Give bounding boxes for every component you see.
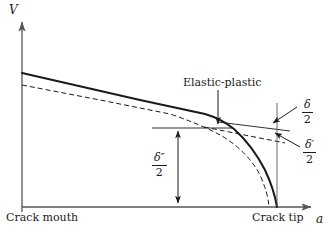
diagram-canvas (0, 0, 335, 240)
elastic-plastic-label: Elastic-plastic (183, 77, 261, 88)
delta-over-two-label: δ 2 (302, 99, 313, 125)
figure-root: V a Crack mouth Crack tip Elastic-plasti… (0, 0, 335, 240)
delta-numerator: δ (302, 99, 313, 113)
crack-tip-tangent-line (218, 122, 290, 131)
crack-tip-label: Crack tip (252, 212, 304, 223)
crack-mouth-label: Crack mouth (6, 212, 78, 223)
delta-prime-denominator: 2 (303, 153, 316, 166)
delta-double-prime-denominator: 2 (152, 166, 167, 179)
delta-double-prime-over-two-label: δ″ 2 (152, 152, 167, 178)
axes-group (22, 22, 311, 212)
y-axis-label: V (9, 4, 18, 16)
elastic-curve-dashed (22, 85, 269, 207)
delta-double-prime-numerator: δ″ (152, 152, 167, 166)
delta-prime-over-two-label: δ′ 2 (303, 139, 316, 165)
x-axis-label: a (316, 213, 323, 225)
delta-prime-numerator: δ′ (303, 139, 316, 153)
elastic-plastic-curve-solid (22, 73, 277, 207)
delta-denominator: 2 (302, 113, 313, 126)
delta-prime-leader-arrow (275, 133, 300, 147)
